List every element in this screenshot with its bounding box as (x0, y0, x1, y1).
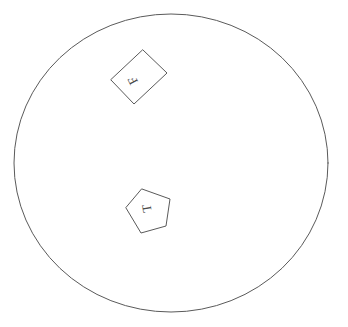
upper-quadrilateral-group: F (111, 50, 167, 104)
lower-quadrilateral-label: T (138, 203, 154, 213)
upper-quadrilateral-label: F (124, 74, 141, 87)
diagram-svg: F T (0, 0, 348, 327)
boundary-circle (14, 14, 328, 312)
lower-quadrilateral-group: T (126, 189, 170, 233)
diagram-canvas: F T (0, 0, 348, 327)
